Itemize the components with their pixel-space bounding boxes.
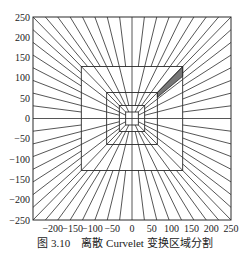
radial-line: [151, 144, 170, 170]
radial-line: [151, 17, 169, 67]
radial-line: [183, 80, 231, 99]
radial-line: [138, 17, 144, 67]
radial-line: [157, 125, 182, 131]
figure-caption: 图 3.10 离散 Curvelet 变换区域分割: [0, 234, 250, 250]
radial-line: [33, 131, 81, 143]
radial-line: [145, 112, 158, 115]
radial-line: [70, 17, 100, 67]
radial-line: [183, 42, 231, 79]
radial-line: [126, 93, 129, 106]
radial-line: [33, 151, 81, 182]
y-tick-label: −200: [9, 194, 30, 205]
x-tick-label: 0: [130, 223, 135, 234]
y-tick-label: −100: [9, 154, 30, 165]
radial-line: [126, 106, 129, 112]
radial-line: [107, 67, 120, 93]
radial-line: [157, 17, 181, 67]
radial-line: [33, 138, 81, 157]
radial-line: [157, 131, 182, 144]
radial-line: [183, 164, 231, 207]
radial-line: [33, 80, 81, 99]
radial-line: [119, 122, 125, 125]
radial-line: [33, 125, 81, 131]
radial-line: [107, 17, 119, 67]
radial-line: [83, 170, 107, 220]
radial-line: [58, 17, 94, 67]
radial-line: [138, 125, 144, 131]
radial-line: [138, 170, 144, 220]
radial-line: [81, 125, 106, 131]
radial-line: [183, 106, 231, 112]
radial-line: [119, 144, 125, 170]
radial-line: [183, 55, 231, 86]
radial-line: [94, 67, 113, 93]
radial-line: [107, 122, 120, 125]
curvelet-partition-diagram: 250200150100500−50−100−150−200−250−200−1…: [0, 0, 250, 259]
radial-line: [183, 30, 231, 73]
radial-line: [119, 106, 125, 112]
radial-line: [33, 68, 81, 93]
radial-line: [33, 93, 81, 105]
x-tick-label: 100: [164, 223, 179, 234]
radial-line: [138, 67, 144, 93]
radial-line: [119, 131, 125, 144]
radial-line: [81, 80, 106, 99]
radial-line: [157, 106, 182, 112]
radial-line: [126, 125, 129, 131]
radial-line: [33, 30, 81, 73]
radial-line: [145, 170, 157, 220]
x-tick-label: −200: [42, 223, 63, 234]
radial-line: [81, 138, 106, 157]
radial-line: [183, 17, 231, 67]
y-tick-label: −50: [14, 133, 30, 144]
radial-line: [81, 144, 106, 170]
radial-line: [164, 17, 194, 67]
radial-line: [135, 106, 138, 112]
radial-line: [145, 125, 158, 131]
radial-line: [107, 170, 119, 220]
y-tick-label: 50: [20, 93, 30, 104]
radial-line: [119, 93, 125, 106]
radial-line: [94, 144, 113, 170]
radial-line: [126, 131, 129, 144]
y-tick-label: 250: [15, 12, 30, 23]
x-tick-label: 50: [147, 223, 157, 234]
radial-line: [107, 144, 120, 170]
caption-text: 离散 Curvelet 变换区域分割: [81, 237, 212, 249]
x-tick-label: −100: [82, 223, 103, 234]
radial-line: [145, 122, 158, 125]
radial-line: [33, 164, 81, 207]
y-tick-label: 200: [15, 32, 30, 43]
radial-line: [107, 106, 120, 112]
radial-line: [70, 170, 100, 220]
radial-line: [183, 131, 231, 143]
y-tick-label: 100: [15, 72, 30, 83]
radial-line: [33, 17, 81, 67]
x-tick-label: 150: [184, 223, 199, 234]
radial-line: [164, 170, 194, 220]
radial-line: [170, 170, 206, 220]
radial-line: [183, 125, 231, 131]
radial-line: [138, 106, 144, 112]
radial-line: [45, 17, 87, 67]
radial-line: [183, 157, 231, 194]
radial-line: [33, 42, 81, 79]
radial-line: [145, 17, 157, 67]
radial-line: [83, 17, 107, 67]
radial-line: [157, 170, 181, 220]
x-tick-label: 200: [204, 223, 219, 234]
radial-line: [176, 170, 218, 220]
radial-line: [135, 131, 138, 144]
x-tick-label: −50: [104, 223, 120, 234]
radial-line: [33, 157, 81, 194]
radial-line: [138, 144, 144, 170]
radial-line: [120, 170, 126, 220]
radial-line: [107, 112, 120, 115]
x-tick-label: 250: [224, 223, 239, 234]
radial-line: [183, 151, 231, 182]
radial-line: [33, 144, 81, 169]
y-tick-label: 150: [15, 52, 30, 63]
radial-line: [183, 170, 231, 220]
radial-line: [119, 125, 125, 131]
y-tick-label: −150: [9, 174, 30, 185]
